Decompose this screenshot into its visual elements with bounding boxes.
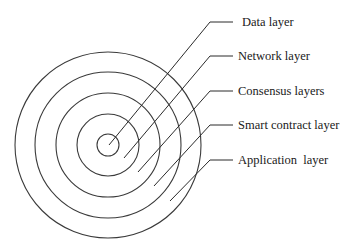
label-application-layer: Application layer: [238, 153, 328, 167]
label-consensus-layers: Consensus layers: [238, 84, 324, 98]
leader-lines-group: [109, 22, 233, 201]
leader-line-application-layer: [170, 160, 233, 201]
label-data-layer: Data layer: [242, 15, 294, 29]
label-smart-contract-layer: Smart contract layer: [238, 118, 339, 132]
label-network-layer: Network layer: [238, 49, 310, 63]
rings-group: [15, 52, 201, 238]
leader-line-data-layer: [109, 22, 233, 145]
ring-network-layer: [77, 114, 139, 176]
layer-diagram: Data layer Network layer Consensus layer…: [0, 0, 345, 250]
ring-smart-contract-layer: [35, 72, 181, 218]
ring-application-layer: [15, 52, 201, 238]
ring-consensus-layers: [56, 93, 160, 197]
